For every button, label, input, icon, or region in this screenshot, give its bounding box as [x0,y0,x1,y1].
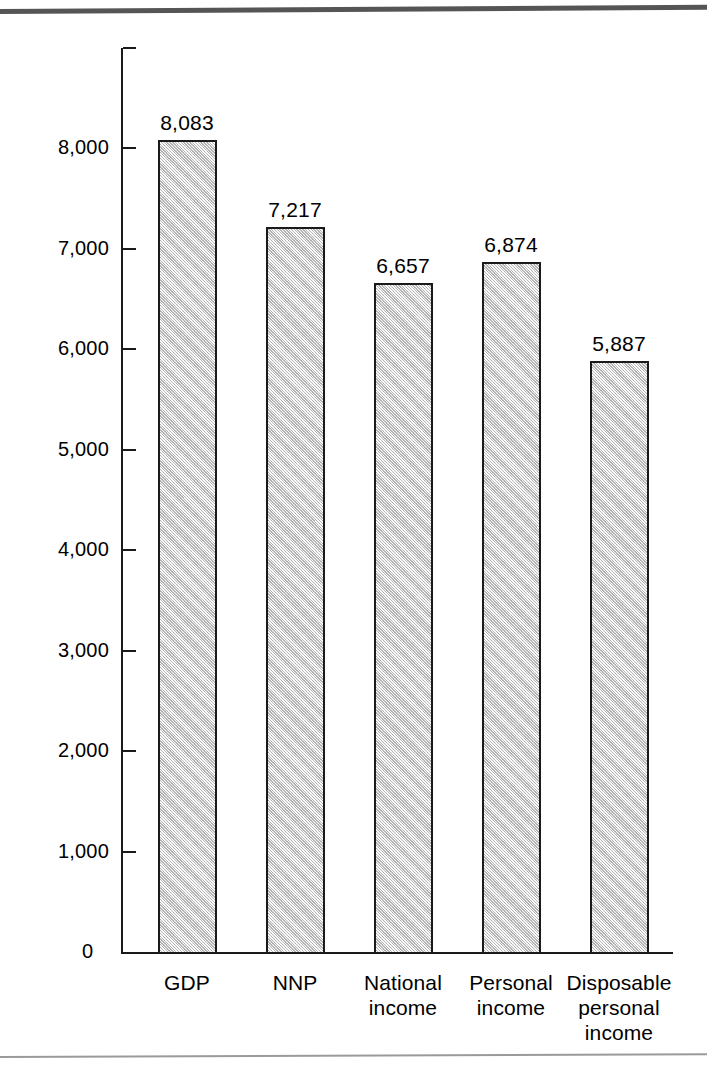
y-axis-tick-mark [123,549,136,551]
x-axis-category-line: National [341,970,465,995]
bar-value-label: 5,887 [559,333,679,354]
x-axis-category-label: Personalincome [449,970,573,1020]
bar-value-label: 6,874 [451,234,571,255]
bar-value-label: 6,657 [343,255,463,276]
y-axis-tick-mark [123,750,136,752]
bar [158,140,217,954]
y-axis-tick-label: 1,000 [35,841,109,861]
bar [266,227,325,954]
y-axis-tick-label: 5,000 [35,439,109,459]
y-axis-line [121,48,123,954]
y-axis-tick-label: 6,000 [35,338,109,358]
y-axis-tick-mark [123,248,136,250]
y-axis-zero-label: 0 [0,941,93,961]
y-axis-tick-mark [123,147,136,149]
bar [590,361,649,954]
y-axis-tick-mark [123,449,136,451]
y-axis-tick-label: 7,000 [35,238,109,258]
y-axis-tick-mark [123,348,136,350]
y-axis-tick-label: 2,000 [35,740,109,760]
x-axis-category-line: income [557,1020,681,1045]
bar-value-label: 8,083 [127,112,247,133]
bar [374,283,433,954]
x-axis-category-line: income [341,995,465,1020]
x-axis-category-label: Nationalincome [341,970,465,1020]
x-axis-category-line: GDP [125,970,249,995]
x-axis-category-line: Personal [449,970,573,995]
x-axis-category-label: Disposablepersonalincome [557,970,681,1045]
x-axis-category-line: personal [557,995,681,1020]
y-axis-tick-mark [123,47,136,49]
y-axis-tick-label: 3,000 [35,640,109,660]
y-axis-tick-mark [123,650,136,652]
x-axis-category-line: income [449,995,573,1020]
x-axis-category-label: NNP [233,970,357,995]
bar [482,262,541,954]
x-axis-category-label: GDP [125,970,249,995]
bar-value-label: 7,217 [235,199,355,220]
y-axis-tick-label: 4,000 [35,539,109,559]
y-axis-tick-mark [123,851,136,853]
x-axis-category-line: Disposable [557,970,681,995]
bar-chart: 0 1,0002,0003,0004,0005,0006,0007,0008,0… [0,0,707,1067]
y-axis-tick-label: 8,000 [35,137,109,157]
x-axis-category-line: NNP [233,970,357,995]
